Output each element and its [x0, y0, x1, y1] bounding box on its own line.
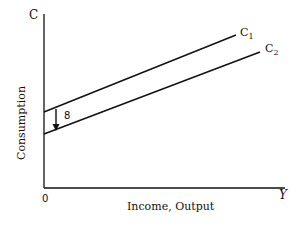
- origin-label: 0: [42, 193, 48, 204]
- shift-label: 8: [64, 110, 70, 121]
- line-c1: [44, 35, 236, 112]
- c2-subscript: 2: [273, 48, 278, 57]
- y-axis-title: Consumption: [15, 86, 28, 160]
- c2-label: C2: [265, 42, 279, 57]
- line-c2: [44, 52, 260, 134]
- y-symbol-label: Y: [279, 188, 287, 202]
- x-axis-title: Income, Output: [127, 200, 214, 213]
- c-axis-label: C: [29, 8, 38, 22]
- c1-subscript: 1: [248, 32, 253, 41]
- c1-label: C1: [240, 26, 254, 41]
